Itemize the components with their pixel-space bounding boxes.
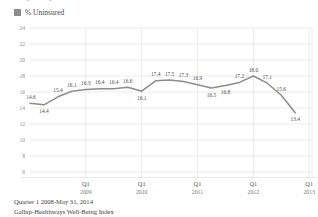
data-point-label: 17.4 bbox=[151, 71, 161, 77]
data-point-label: 15.6 bbox=[277, 86, 287, 92]
data-point-label: 16.4 bbox=[109, 79, 119, 85]
x-axis-tick-quarter: Q1 bbox=[233, 180, 273, 189]
y-axis-tick-label: 10 bbox=[19, 137, 25, 143]
data-point-label: 14.4 bbox=[39, 108, 49, 114]
data-point-label: 17.5 bbox=[165, 71, 175, 77]
x-axis-tick-year: 2010 bbox=[122, 189, 162, 197]
x-axis-tick-quarter: Q1 bbox=[178, 180, 218, 189]
data-point-label: 16.1 bbox=[67, 82, 77, 88]
x-axis-tick-year: 2009 bbox=[66, 189, 106, 197]
data-point-label: 17.2 bbox=[235, 73, 245, 79]
data-point-label: 13.4 bbox=[291, 116, 301, 122]
y-axis-tick-label: 18 bbox=[19, 73, 25, 79]
x-axis-tick: Q12013 bbox=[289, 180, 318, 196]
data-point-label: 16.9 bbox=[193, 75, 203, 81]
data-point-label: 17.3 bbox=[179, 72, 189, 78]
y-axis-tick-label: 16 bbox=[19, 89, 25, 95]
x-axis-tick: Q12010 bbox=[122, 180, 162, 196]
x-axis-tick-year: 2012 bbox=[233, 189, 273, 197]
data-point-label: 17.1 bbox=[263, 74, 273, 80]
data-point-label: 16.8 bbox=[221, 89, 231, 95]
clipped-chart-title: among adults aged 18 and older bbox=[14, 0, 87, 1]
y-axis-tick-label: 22 bbox=[19, 41, 25, 47]
data-point-label: 16.6 bbox=[123, 78, 133, 84]
x-axis-tick-year: 2013 bbox=[289, 189, 318, 197]
x-axis-tick-year: 2011 bbox=[178, 189, 218, 197]
chart-plot-area: 68101214161820222414.614.415.416.116.316… bbox=[0, 26, 318, 178]
x-axis-tick-quarter: Q1 bbox=[122, 180, 162, 189]
data-point-label: 16.5 bbox=[207, 92, 217, 98]
y-axis-tick-label: 14 bbox=[19, 105, 25, 111]
y-axis-tick-label: 24 bbox=[19, 26, 25, 31]
data-point-label: 18.0 bbox=[249, 67, 259, 73]
x-axis-tick-quarter: Q1 bbox=[289, 180, 318, 189]
y-axis-tick-label: 6 bbox=[22, 169, 25, 175]
data-point-label: 16.1 bbox=[137, 95, 147, 101]
footer-source: Gallup-Healthways Well-Being Index bbox=[14, 207, 314, 217]
data-point-label: 16.4 bbox=[95, 79, 105, 85]
x-axis-tick: Q12012 bbox=[233, 180, 273, 196]
legend-label-uninsured: % Uninsured bbox=[25, 8, 64, 17]
x-axis-tick: Q12009 bbox=[66, 180, 106, 196]
x-axis-labels: Q12009Q12010Q12011Q12012Q12013Q12014 bbox=[0, 176, 318, 198]
chart-legend: % Uninsured bbox=[14, 8, 64, 17]
footer-period: Quarter 1 2008-May 31, 2014 bbox=[14, 197, 314, 207]
x-axis-tick: Q12011 bbox=[178, 180, 218, 196]
legend-swatch-uninsured bbox=[14, 9, 21, 16]
y-axis-tick-label: 20 bbox=[19, 57, 25, 63]
chart-footer: Quarter 1 2008-May 31, 2014 Gallup-Healt… bbox=[14, 197, 314, 217]
data-point-label: 15.4 bbox=[53, 87, 63, 93]
y-axis-tick-label: 8 bbox=[22, 153, 25, 159]
data-point-label: 16.3 bbox=[81, 80, 91, 86]
data-point-label: 14.6 bbox=[26, 94, 36, 100]
x-axis-tick-quarter: Q1 bbox=[66, 180, 106, 189]
y-axis-tick-label: 12 bbox=[19, 121, 25, 127]
line-chart: 68101214161820222414.614.415.416.116.316… bbox=[0, 26, 318, 178]
